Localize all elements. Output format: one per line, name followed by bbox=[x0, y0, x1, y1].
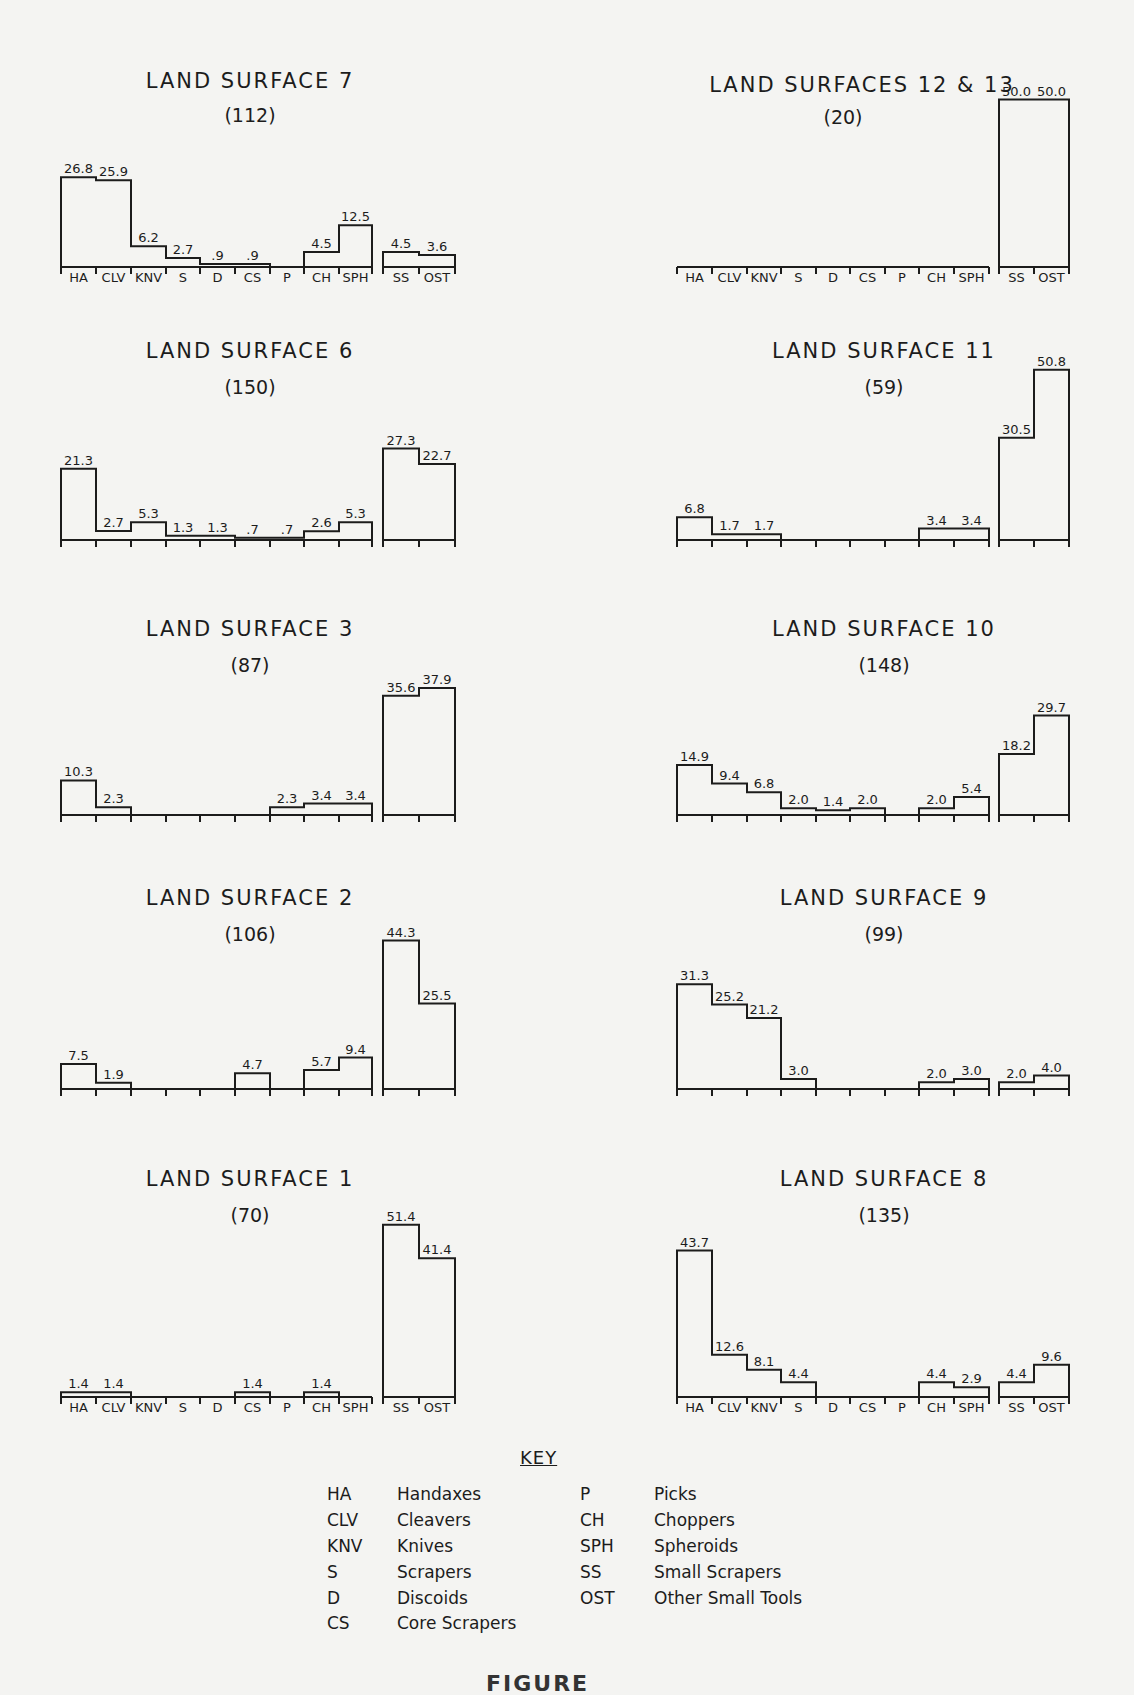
value-label: 50.0 bbox=[1037, 84, 1066, 99]
category-label: OST bbox=[1038, 1400, 1064, 1415]
sample-count: (99) bbox=[864, 923, 903, 945]
value-label: .9 bbox=[211, 248, 223, 263]
value-label: 2.0 bbox=[1006, 1066, 1027, 1081]
category-label: SPH bbox=[959, 1400, 985, 1415]
key-name: Discoids bbox=[397, 1588, 468, 1608]
value-label: 35.6 bbox=[387, 680, 416, 695]
category-label: HA bbox=[69, 270, 88, 285]
chart-land-surface-11: LAND SURFACE 11(59)6.81.71.73.43.430.550… bbox=[677, 339, 1069, 547]
value-label: 8.1 bbox=[754, 1354, 775, 1369]
category-label: CLV bbox=[718, 1400, 742, 1415]
category-label: SS bbox=[1008, 1400, 1025, 1415]
value-label: 1.4 bbox=[823, 794, 844, 809]
category-label: D bbox=[828, 1400, 838, 1415]
sample-count: (59) bbox=[864, 376, 903, 398]
chart-title: LAND SURFACE 1 bbox=[146, 1167, 355, 1191]
key-abbr: P bbox=[580, 1484, 590, 1504]
chart-title: LAND SURFACE 2 bbox=[146, 886, 355, 910]
value-label: 26.8 bbox=[64, 161, 93, 176]
value-label: 3.4 bbox=[345, 788, 366, 803]
value-label: 25.5 bbox=[423, 988, 452, 1003]
bar-outline bbox=[383, 688, 455, 815]
value-label: 37.9 bbox=[423, 672, 452, 687]
key-name: Core Scrapers bbox=[397, 1613, 516, 1633]
category-label: P bbox=[283, 1400, 291, 1415]
value-label: 3.4 bbox=[926, 513, 947, 528]
value-label: 10.3 bbox=[64, 764, 93, 779]
bar-outline bbox=[999, 100, 1069, 268]
value-label: 1.4 bbox=[103, 1376, 124, 1391]
value-label: 25.9 bbox=[99, 164, 128, 179]
value-label: 6.8 bbox=[754, 776, 775, 791]
chart-panels: LAND SURFACE 7(112)26.825.96.22.7.9.94.5… bbox=[61, 69, 1069, 1415]
category-label: SPH bbox=[343, 270, 369, 285]
category-label: D bbox=[212, 270, 222, 285]
value-label: 29.7 bbox=[1037, 700, 1066, 715]
key-name: Small Scrapers bbox=[654, 1562, 781, 1582]
category-label: KNV bbox=[135, 270, 162, 285]
key-abbr: OST bbox=[580, 1588, 615, 1608]
value-label: 43.7 bbox=[680, 1235, 709, 1250]
value-label: 30.5 bbox=[1002, 422, 1031, 437]
category-label: D bbox=[212, 1400, 222, 1415]
category-label: OST bbox=[424, 270, 450, 285]
value-label: 1.7 bbox=[719, 518, 740, 533]
value-label: 1.7 bbox=[754, 518, 775, 533]
value-label: 5.4 bbox=[961, 781, 982, 796]
value-label: 9.4 bbox=[345, 1042, 366, 1057]
key-abbr: SS bbox=[580, 1562, 602, 1582]
category-label: OST bbox=[424, 1400, 450, 1415]
figure-caption: FIGURE bbox=[486, 1671, 589, 1695]
chart-land-surface-8: LAND SURFACE 8(135)43.712.68.14.44.42.94… bbox=[677, 1167, 1069, 1415]
value-label: .7 bbox=[281, 522, 293, 537]
category-label: SS bbox=[393, 270, 410, 285]
category-label: HA bbox=[685, 270, 704, 285]
value-label: 3.0 bbox=[961, 1063, 982, 1078]
category-label: CH bbox=[927, 270, 946, 285]
category-label: SS bbox=[1008, 270, 1025, 285]
chart-land-surface-9: LAND SURFACE 9(99)31.325.221.23.02.03.02… bbox=[677, 886, 1069, 1096]
sample-count: (106) bbox=[224, 923, 275, 945]
value-label: 1.4 bbox=[242, 1376, 263, 1391]
value-label: 5.3 bbox=[345, 506, 366, 521]
value-label: 21.2 bbox=[750, 1002, 779, 1017]
category-label: CLV bbox=[102, 1400, 126, 1415]
value-label: 7.5 bbox=[68, 1048, 89, 1063]
sample-count: (20) bbox=[823, 106, 862, 128]
value-label: 44.3 bbox=[387, 925, 416, 940]
value-label: 50.8 bbox=[1037, 354, 1066, 369]
category-label: HA bbox=[685, 1400, 704, 1415]
bar-outline bbox=[383, 941, 455, 1089]
category-label: S bbox=[794, 270, 802, 285]
key-name: Spheroids bbox=[654, 1536, 738, 1556]
value-label: .7 bbox=[246, 522, 258, 537]
value-label: 12.6 bbox=[715, 1339, 744, 1354]
bar-outline bbox=[383, 252, 455, 267]
key-name: Knives bbox=[397, 1536, 453, 1556]
category-label: KNV bbox=[750, 270, 777, 285]
sample-count: (148) bbox=[858, 654, 909, 676]
value-label: 9.4 bbox=[719, 768, 740, 783]
value-label: 4.7 bbox=[242, 1057, 263, 1072]
value-label: 2.3 bbox=[103, 791, 124, 806]
chart-land-surface-6: LAND SURFACE 6(150)21.32.75.31.31.3.7.72… bbox=[61, 339, 455, 547]
value-label: 1.3 bbox=[207, 520, 228, 535]
value-label: 1.3 bbox=[173, 520, 194, 535]
value-label: 4.4 bbox=[926, 1366, 947, 1381]
key-abbr: HA bbox=[327, 1484, 351, 1504]
category-label: P bbox=[898, 270, 906, 285]
bar-outline bbox=[999, 370, 1069, 540]
value-label: 6.8 bbox=[684, 501, 705, 516]
value-label: 21.3 bbox=[64, 453, 93, 468]
category-label: S bbox=[794, 1400, 802, 1415]
category-label: P bbox=[283, 270, 291, 285]
value-label: 2.0 bbox=[788, 792, 809, 807]
category-label: S bbox=[179, 270, 187, 285]
value-label: 2.0 bbox=[926, 792, 947, 807]
chart-title: LAND SURFACE 8 bbox=[780, 1167, 989, 1191]
sample-count: (87) bbox=[230, 654, 269, 676]
value-label: 2.3 bbox=[277, 791, 298, 806]
key-abbr: S bbox=[327, 1562, 338, 1582]
chart-land-surface-7: LAND SURFACE 7(112)26.825.96.22.7.9.94.5… bbox=[61, 69, 455, 285]
category-label: CS bbox=[859, 270, 876, 285]
